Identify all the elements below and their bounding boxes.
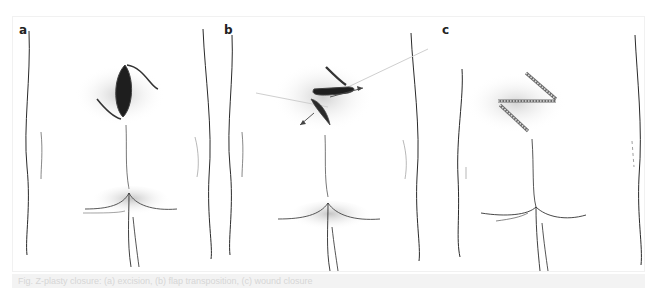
panel-c: c — [436, 17, 646, 273]
figure-caption: Fig. Z-plasty closure: (a) excision, (b)… — [12, 274, 645, 288]
panel-a: a — [13, 17, 218, 273]
panel-b: b — [218, 17, 436, 273]
panel-a-illustration — [13, 17, 218, 273]
panel-b-illustration — [218, 17, 436, 273]
figure-container: a — [12, 16, 645, 272]
panel-c-illustration — [436, 17, 646, 273]
